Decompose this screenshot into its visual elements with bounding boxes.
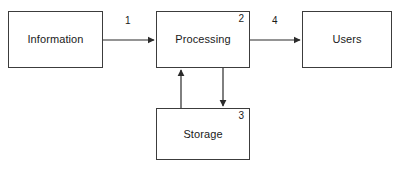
node-information-label: Information xyxy=(27,34,83,45)
node-processing-label: Processing xyxy=(175,34,230,45)
node-users[interactable]: Users xyxy=(302,11,392,68)
node-storage-number: 3 xyxy=(238,111,244,121)
node-storage-label: Storage xyxy=(183,129,222,140)
node-users-label: Users xyxy=(332,34,361,45)
edge-label-1: 1 xyxy=(125,16,131,26)
node-information[interactable]: Information xyxy=(8,11,103,68)
node-processing-number: 2 xyxy=(238,14,244,24)
edge-label-4: 4 xyxy=(272,16,278,26)
node-processing[interactable]: 2 Processing xyxy=(156,11,250,68)
node-storage[interactable]: 3 Storage xyxy=(156,108,250,160)
flow-diagram: Information 2 Processing Users 3 Storage… xyxy=(0,0,398,169)
